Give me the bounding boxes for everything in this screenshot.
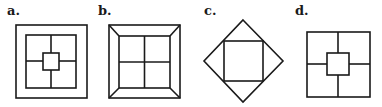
figure-c bbox=[204, 20, 283, 102]
figure-d bbox=[307, 32, 370, 97]
figure-b bbox=[109, 25, 180, 98]
figure-a bbox=[16, 25, 87, 98]
figures-canvas bbox=[0, 0, 382, 107]
